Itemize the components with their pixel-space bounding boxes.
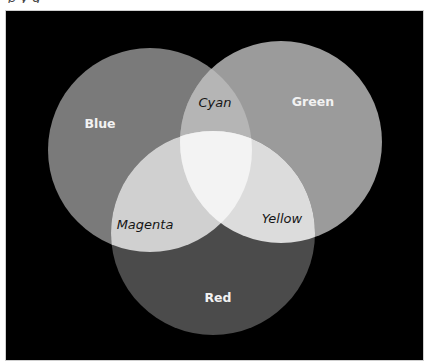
- label-cyan: Cyan: [199, 95, 232, 110]
- venn-diagram: [0, 0, 428, 364]
- label-red: Red: [204, 290, 231, 305]
- label-blue: Blue: [84, 116, 115, 131]
- label-green: Green: [292, 94, 334, 109]
- label-magenta: Magenta: [117, 217, 174, 232]
- label-yellow: Yellow: [262, 211, 302, 226]
